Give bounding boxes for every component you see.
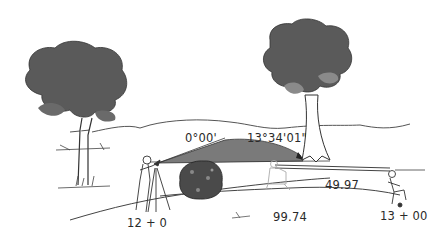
label-start-station: 12 + 0 [127, 216, 167, 230]
grass-tuft [232, 212, 250, 218]
label-foresight-angle: 13°34'01" [247, 131, 307, 145]
tree-left [26, 41, 127, 188]
surveyor-right [388, 171, 406, 208]
label-distance-1: 99.74 [273, 210, 307, 224]
horizon-lines [70, 120, 410, 132]
surveyor-instrument [136, 156, 170, 212]
rock [180, 161, 223, 199]
ground-lines [70, 161, 425, 220]
survey-illustration: 0°00' 13°34'01" 12 + 0 13 + 00 99.74 49.… [0, 0, 433, 238]
scene-drawing [0, 0, 433, 238]
label-backsight-angle: 0°00' [185, 131, 217, 145]
label-end-station: 13 + 00 [380, 209, 428, 223]
label-distance-2: 49.97 [325, 178, 359, 192]
